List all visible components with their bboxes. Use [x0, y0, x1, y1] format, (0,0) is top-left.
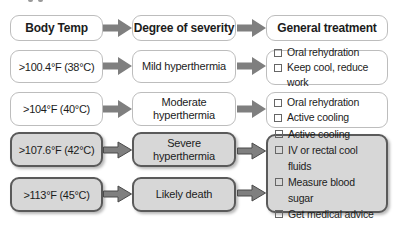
- arrow-right-icon: [237, 19, 266, 37]
- severity-box-severe: Severe hyperthermia: [132, 132, 236, 167]
- treatment-header-label: General treatment: [277, 21, 376, 35]
- treatment-item: IV or rectal cool fluids: [275, 142, 382, 174]
- treatment-box-moderate: Oral rehydration Active cooling: [266, 92, 388, 128]
- hyperthermia-flowchart: Body Temp Degree of severity General tre…: [0, 0, 407, 226]
- temp-box-death: >113°F (45°C): [10, 177, 103, 212]
- temp-box-severe: >107.6°F (42°C): [10, 132, 103, 167]
- arrow-right-icon: [237, 184, 266, 202]
- treatment-item: Get medical advice: [275, 206, 382, 222]
- severity-header: Degree of severity: [132, 15, 236, 41]
- body-temp-header-label: Body Temp: [25, 21, 88, 35]
- treatment-box-mild: Oral rehydration Keep cool, reduce work: [266, 50, 388, 85]
- temp-value: >113°F (45°C): [23, 189, 89, 201]
- checkbox-icon: [274, 49, 282, 57]
- checkbox-icon: [275, 178, 283, 186]
- arrow-right-icon: [103, 141, 132, 159]
- body-temp-header: Body Temp: [10, 15, 103, 41]
- severity-value: Mild hyperthermia: [142, 60, 226, 73]
- treatment-item: Active cooling: [275, 126, 382, 142]
- cropped-label-fragment: [28, 0, 48, 3]
- severity-box-moderate: Moderate hyperthermia: [132, 92, 236, 126]
- treatment-item: Oral rehydration: [274, 95, 359, 110]
- checkbox-icon: [275, 130, 283, 138]
- treatment-header: General treatment: [266, 15, 388, 41]
- temp-value: >107.6°F (42°C): [19, 144, 95, 156]
- checkbox-icon: [275, 146, 283, 154]
- arrow-right-icon: [103, 100, 132, 118]
- severity-box-mild: Mild hyperthermia: [132, 50, 236, 83]
- arrow-right-icon: [103, 19, 132, 37]
- checkbox-icon: [274, 64, 282, 72]
- severity-box-death: Likely death: [132, 177, 236, 212]
- treatment-item: Measure blood sugar: [275, 174, 382, 206]
- checkbox-icon: [274, 99, 282, 107]
- severity-value: Likely death: [156, 188, 212, 201]
- checkbox-icon: [275, 210, 283, 218]
- checkbox-icon: [274, 114, 282, 122]
- treatment-item: Active cooling: [274, 110, 359, 125]
- treatment-item: Keep cool, reduce work: [274, 60, 383, 90]
- severity-value: Severe hyperthermia: [137, 137, 231, 163]
- temp-box-moderate: >104°F (40°C): [10, 92, 103, 126]
- temp-value: >104°F (40°C): [23, 103, 90, 115]
- treatment-box-shared: Active cooling IV or rectal cool fluids …: [266, 134, 388, 213]
- temp-value: >100.4°F (38°C): [19, 61, 95, 73]
- arrow-right-icon: [237, 100, 266, 118]
- temp-box-mild: >100.4°F (38°C): [10, 50, 103, 83]
- severity-header-label: Degree of severity: [134, 21, 234, 35]
- severity-value: Moderate hyperthermia: [136, 96, 232, 122]
- arrow-right-icon: [237, 142, 266, 160]
- arrow-right-icon: [237, 57, 266, 75]
- treatment-item: Oral rehydration: [274, 45, 383, 60]
- arrow-right-icon: [103, 57, 132, 75]
- arrow-right-icon: [103, 185, 132, 203]
